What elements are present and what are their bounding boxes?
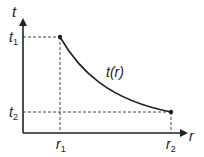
- point-r1-t1: [58, 35, 62, 39]
- r2-label: r2: [166, 136, 176, 154]
- x-axis-label: r: [189, 128, 195, 144]
- y-axis-label: t: [12, 3, 17, 20]
- point-r2-t2: [169, 110, 173, 114]
- diagram-canvas: t r t1 t2 r1 r2 t(r): [0, 0, 204, 157]
- r1-label: r1: [56, 136, 66, 154]
- curve-label: t(r): [106, 64, 124, 80]
- t2-label: t2: [9, 104, 18, 122]
- t1-label: t1: [9, 29, 18, 47]
